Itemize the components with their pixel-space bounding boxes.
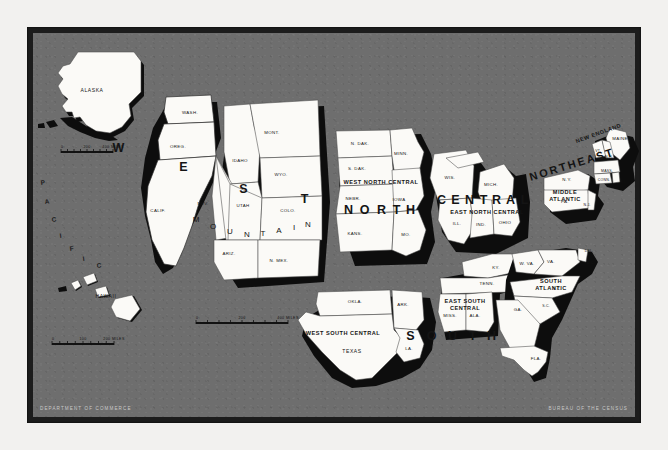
region-label-west-letter-2: S [239,182,248,196]
region-label-south-letter-0: S [406,329,415,343]
region-label-central-letter-0: C [437,193,447,207]
state-label-conn: CONN. [598,178,610,182]
division-label-mountain-letter-3: N [244,230,250,239]
region-label-central-letter-4: R [492,193,502,207]
state-label-texas: TEXAS [342,348,361,354]
ocean-letter-3: I [59,232,63,239]
state-label-fla: FLA. [531,356,542,361]
state-label-r-i: R.I. [620,180,626,184]
scale-bar-main: 0200400 MILES [196,316,299,325]
state-label-maine: MAINE [612,136,628,141]
state-label-hawaii: HAWAII [95,293,116,299]
region-label-south-letter-4: H [487,329,497,343]
region-label-central-letter-5: A [506,193,516,207]
scale-tick-hawaii-1: 100 [79,337,86,341]
scale-tick-alaska-0: 0 [61,145,63,149]
state-label-mo: MO. [401,232,410,237]
state-label-n-j: N.J. [583,203,590,207]
division-label-west-north-central: WEST NORTH CENTRAL [344,179,419,185]
scale-tick-main-2: 400 MILES [277,316,299,320]
scale-tick-main-0: 0 [196,316,198,320]
state-label-ga: GA. [514,307,523,312]
state-label-nev: NEV. [197,201,208,206]
division-label-mountain-letter-4: T [261,229,266,238]
state-label-calif: CALIF. [150,208,165,213]
division-label-mountain-letter-2: U [227,227,233,236]
scale-tick-alaska-1: 200 [83,145,90,149]
state-label-minn: MINN. [394,151,408,156]
division-label-east-south-central: EAST SOUTHCENTRAL [444,298,485,311]
region-label-south-letter-2: U [448,329,458,343]
state-label-tenn: TENN. [480,281,495,286]
ocean-letter-0: P [40,178,46,186]
credit-department-of-commerce: DEPARTMENT OF COMMERCE [40,406,132,411]
us-census-regions-map: PACIFIC ALASKAHAWAIIWASH.OREG.CALIF.IDAH… [0,0,668,450]
division-label-mountain-letter-1: O [210,222,216,231]
pacific-ocean-label: PACIFIC [40,178,103,269]
division-group-south-atlantic [496,248,598,382]
ocean-letter-5: I [82,255,86,262]
state-group-alaska [38,52,144,141]
region-label-west-letter-1: E [179,160,188,174]
state-label-d-c: D.C. [587,261,595,265]
scale-tick-alaska-2: 400 MILES [102,145,124,149]
map-page: PACIFIC ALASKAHAWAIIWASH.OREG.CALIF.IDAH… [0,0,668,450]
state-label-alaska: ALASKA [80,87,103,93]
ocean-letter-2: C [51,215,58,223]
state-label-s-dak: S. DAK. [348,166,366,171]
state-label-wyo: WYO. [274,172,287,177]
region-label-north-letter-0: N [344,203,354,217]
region-label-central-letter-1: E [451,193,460,207]
region-label-south-letter-1: O [427,329,438,343]
state-label-mich: MICH. [484,182,498,187]
division-label-mountain-letter-7: N [305,220,311,229]
state-label-okla: OKLA. [348,299,363,304]
region-label-north-letter-2: R [377,203,387,217]
state-label-ind: IND. [476,222,486,227]
state-label-miss: MISS. [443,313,457,318]
division-label-mountain-letter-0: M [193,215,200,224]
state-label-ariz: ARIZ. [223,251,236,256]
state-label-ala: ALA. [470,313,481,318]
state-label-va: VA. [547,259,555,264]
state-label-colo: COLO. [280,208,295,213]
region-label-central-letter-6: L [521,193,530,207]
state-label-w-va: W. VA. [519,261,534,266]
state-label-iowa: IOWA [393,197,406,202]
region-label-south-letter-3: T [469,329,478,343]
state-label-utah: UTAH [236,203,249,208]
region-label-central-letter-2: N [465,193,475,207]
region-label-north-letter-3: T [393,203,402,217]
state-label-n-y: N.Y. [562,177,571,182]
division-label-east-north-central: EAST NORTH CENTRAL [450,209,524,215]
division-label-west-south-central: WEST SOUTH CENTRAL [306,330,381,336]
region-label-north-letter-4: H [406,203,416,217]
state-label-wash: WASH. [182,110,198,115]
state-label-ark: ARK. [397,302,409,307]
region-label-north-letter-1: O [360,203,371,217]
state-label-s-c: S.C. [542,304,550,308]
state-label-nebr: NEBR. [345,196,360,201]
scale-bar-hawaii: 0100200 MILES [52,337,125,346]
state-label-la: LA. [405,346,413,351]
state-label-wis: WIS. [445,175,456,180]
scale-tick-hawaii-2: 200 MILES [103,337,125,341]
region-label-central-letter-3: T [480,193,489,207]
state-label-mont: MONT. [264,130,279,135]
state-label-ky: KY. [492,265,500,270]
scale-tick-main-1: 200 [238,316,245,320]
state-label-n-mex: N. MEX. [270,258,289,263]
scale-tick-hawaii-0: 0 [52,337,54,341]
state-label-ohio: OHIO [499,220,512,225]
state-label-mass: MASS. [601,169,613,173]
state-label-idaho: IDAHO [232,158,248,163]
ocean-letter-4: F [69,244,75,252]
state-label-del: DEL. [585,249,594,253]
division-label-mountain-letter-6: I [293,223,295,232]
state-label-kans: KANS. [348,231,363,236]
state-label-ill: ILL. [453,221,462,226]
state-label-n-dak: N. DAK. [351,141,369,146]
credit-bureau-of-the-census: BUREAU OF THE CENSUS [548,406,628,411]
division-label-mountain-letter-5: A [276,226,282,235]
state-label-oreg: OREG. [170,144,186,149]
